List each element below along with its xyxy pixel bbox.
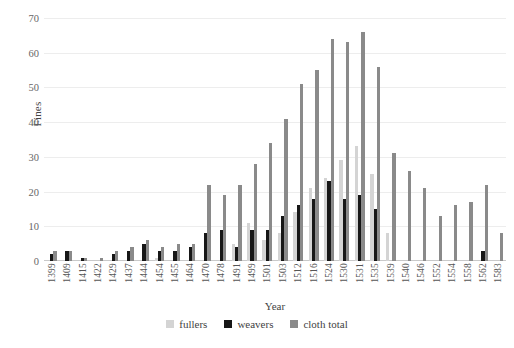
x-tick-label: 1499 [247,263,257,283]
x-tick-label: 1539 [386,263,396,283]
legend-label: fullers [179,318,207,330]
bar-group [337,18,352,261]
x-tick: 1444 [136,263,151,301]
x-tick: 1501 [260,263,275,301]
bar-group [291,18,306,261]
bar-group [75,18,90,261]
chart-figure: Fines 010203040506070 139914091415142214… [0,0,514,348]
bar-total [331,39,334,261]
bar-group [445,18,460,261]
bar-total [469,202,472,261]
x-tick: 1409 [59,263,74,301]
x-tick-label: 1558 [463,263,473,283]
x-tick-label: 1530 [339,263,349,283]
bar-total [100,258,103,261]
bar-group [244,18,259,261]
y-tick-label: 10 [29,221,40,232]
x-tick: 1531 [352,263,367,301]
bar-total [192,244,195,261]
bar-group [460,18,475,261]
x-tick: 1454 [152,263,167,301]
x-tick: 1455 [167,263,182,301]
x-tick: 1512 [291,263,306,301]
bar-group [321,18,336,261]
bar-group [44,18,59,261]
bar-total [346,42,349,261]
x-tick-label: 1454 [155,263,165,283]
bar-group [90,18,105,261]
bar-total [300,84,303,261]
bar-group [183,18,198,261]
x-tick-label: 1524 [324,263,334,283]
bar-total [485,185,488,261]
x-tick: 1503 [275,263,290,301]
bar-total [53,251,56,261]
legend-label: cloth total [303,318,347,330]
bar-total [115,251,118,261]
x-tick: 1539 [383,263,398,301]
bar-total [207,185,210,261]
x-tick: 1422 [90,263,105,301]
bar-group [121,18,136,261]
bar-group [229,18,244,261]
x-tick: 1562 [475,263,490,301]
bar-group [383,18,398,261]
bar-total [408,171,411,261]
legend-label: weavers [237,318,273,330]
x-tick-label: 1470 [201,263,211,283]
x-tick-label: 1516 [309,263,319,283]
x-tick: 1429 [106,263,121,301]
bar-groups [44,18,506,261]
bar-group [414,18,429,261]
x-tick-label: 1491 [232,263,242,283]
legend-item-weavers[interactable]: weavers [224,318,273,330]
bar-total [315,70,318,261]
bar-total [254,164,257,261]
x-tick-label: 1399 [47,263,57,283]
plot-area: 010203040506070 [44,18,506,261]
bar-group [260,18,275,261]
x-tick: 1554 [445,263,460,301]
x-tick: 1524 [321,263,336,301]
legend-swatch-icon [224,320,232,328]
y-tick-label: 60 [29,47,40,58]
x-tick-label: 1512 [293,263,303,283]
x-tick: 1499 [244,263,259,301]
x-tick: 1552 [429,263,444,301]
bar-total [284,119,287,261]
x-tick: 1535 [368,263,383,301]
x-tick-label: 1531 [355,263,365,283]
bar-total [269,143,272,261]
legend-item-fullers[interactable]: fullers [166,318,207,330]
y-tick-label: 50 [29,82,40,93]
bar-total [177,244,180,261]
y-tick-label: 70 [29,13,40,24]
x-tick: 1478 [213,263,228,301]
bar-group [213,18,228,261]
x-tick-label: 1503 [278,263,288,283]
x-tick: 1530 [337,263,352,301]
x-tick: 1583 [491,263,506,301]
bar-group [491,18,506,261]
x-axis-ticks: 1399140914151422142914371444145414551464… [44,263,506,301]
bar-group [275,18,290,261]
bar-group [152,18,167,261]
bar-total [392,153,395,261]
legend-item-total[interactable]: cloth total [290,318,347,330]
bar-total [161,247,164,261]
bar-group [368,18,383,261]
bar-total [423,188,426,261]
x-tick: 1437 [121,263,136,301]
x-tick-label: 1583 [493,263,503,283]
x-tick-label: 1562 [478,263,488,283]
x-tick: 1546 [414,263,429,301]
x-tick-label: 1409 [62,263,72,283]
x-tick-label: 1415 [78,263,88,283]
bar-total [146,240,149,261]
legend-swatch-icon [290,320,298,328]
bar-total [377,67,380,261]
bar-fullers [386,233,389,261]
x-tick-label: 1455 [170,263,180,283]
x-tick: 1464 [183,263,198,301]
bar-group [475,18,490,261]
